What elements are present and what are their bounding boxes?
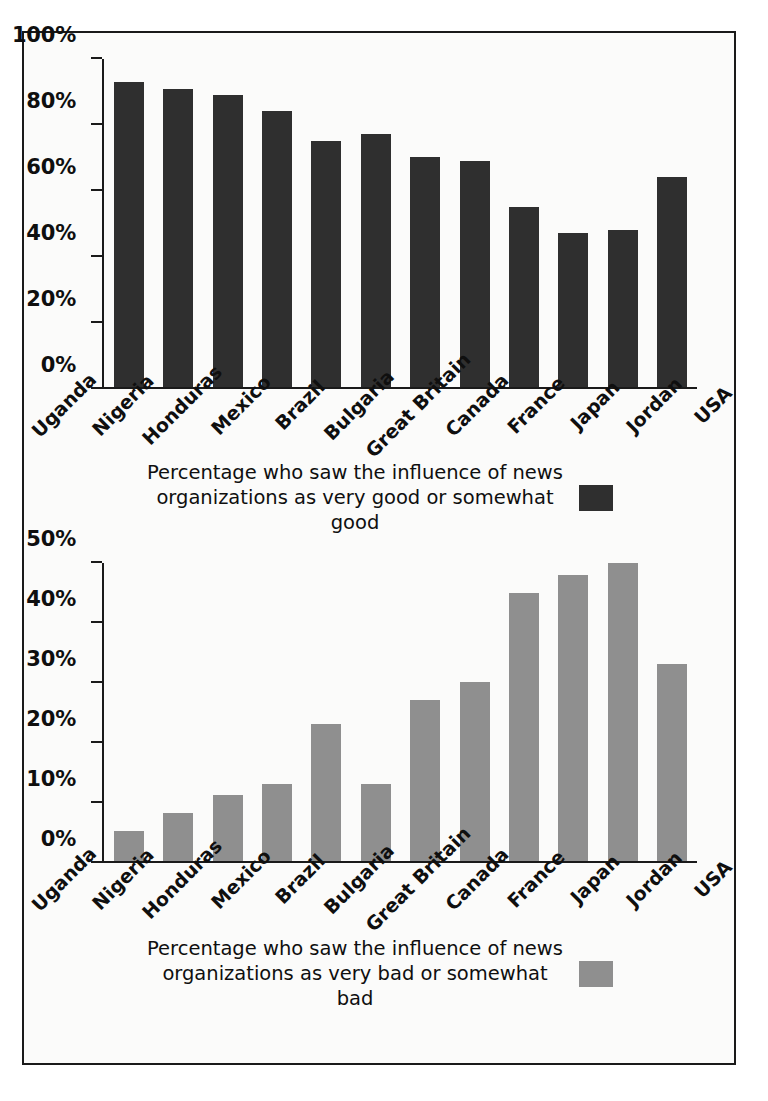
y-tick-label-bad-4: 10%: [26, 767, 76, 791]
bar-bad-japan: [558, 575, 588, 861]
y-tick-bad-2: 30%: [91, 681, 102, 683]
legend-bad-line1: Percentage who saw the influence of news: [145, 937, 565, 962]
bar-bad-great-britain: [410, 700, 440, 861]
legend-good-line1: Percentage who saw the influence of news: [145, 461, 565, 486]
y-tick-label-bad-0: 50%: [26, 527, 76, 551]
y-tick-bad-1: 40%: [91, 621, 102, 623]
plot-area-good: 100%80%60%40%20%0%: [102, 59, 697, 389]
bar-bad-france: [509, 593, 539, 861]
bar-good-jordan: [608, 230, 638, 387]
y-tick-label-good-2: 60%: [26, 155, 76, 179]
bar-good-brazil: [311, 141, 341, 387]
y-tick-label-good-3: 40%: [26, 221, 76, 245]
bar-bad-nigeria: [163, 813, 193, 861]
x-label-text: Uganda: [27, 842, 100, 915]
bar-bad-jordan: [608, 563, 638, 861]
legend-bad-swatch: [579, 961, 613, 987]
y-tick-label-bad-3: 20%: [26, 707, 76, 731]
bar-series-bad: [104, 563, 697, 861]
bar-good-great-britain: [410, 157, 440, 387]
x-label-text: Uganda: [27, 368, 100, 441]
y-tick-label-good-4: 20%: [26, 287, 76, 311]
y-tick-label-good-5: 0%: [41, 353, 76, 377]
y-tick-label-good-0: 100%: [12, 23, 76, 47]
bar-series-good: [104, 59, 697, 387]
bar-good-bulgaria: [361, 134, 391, 387]
y-tick-bad-3: 20%: [91, 741, 102, 743]
bar-good-japan: [558, 233, 588, 387]
bar-good-mexico: [262, 111, 292, 387]
chart-panel-good: 100%80%60%40%20%0% UgandaNigeriaHonduras…: [24, 37, 734, 507]
y-tick-label-bad-1: 40%: [26, 587, 76, 611]
legend-good-text: Percentage who saw the influence of news…: [145, 461, 565, 536]
legend-good-line2: organizations as very good or somewhat g…: [145, 486, 565, 536]
bar-good-nigeria: [163, 89, 193, 387]
bar-good-honduras: [213, 95, 243, 387]
legend-good: Percentage who saw the influence of news…: [24, 461, 734, 536]
bar-good-usa: [657, 177, 687, 387]
plot-area-bad: 50%40%30%20%10%0%: [102, 563, 697, 863]
y-tick-label-bad-2: 30%: [26, 647, 76, 671]
legend-good-swatch: [579, 485, 613, 511]
y-tick-label-bad-5: 0%: [41, 827, 76, 851]
y-tick-good-3: 40%: [91, 255, 102, 257]
y-tick-bad-4: 10%: [91, 801, 102, 803]
bar-bad-brazil: [311, 724, 341, 861]
y-tick-label-good-1: 80%: [26, 89, 76, 113]
figure-frame: 100%80%60%40%20%0% UgandaNigeriaHonduras…: [22, 31, 736, 1065]
legend-bad-line2: organizations as very bad or somewhat ba…: [145, 962, 565, 1012]
bar-bad-usa: [657, 664, 687, 861]
legend-bad: Percentage who saw the influence of news…: [24, 937, 734, 1012]
y-tick-good-2: 60%: [91, 189, 102, 191]
y-tick-good-1: 80%: [91, 123, 102, 125]
bar-bad-mexico: [262, 784, 292, 861]
chart-panel-bad: 50%40%30%20%10%0% UgandaNigeriaHondurasM…: [24, 545, 734, 995]
bar-good-france: [509, 207, 539, 387]
legend-bad-text: Percentage who saw the influence of news…: [145, 937, 565, 1012]
y-tick-good-0: 100%: [91, 57, 102, 59]
bar-good-uganda: [114, 82, 144, 387]
y-tick-bad-0: 50%: [91, 561, 102, 563]
y-tick-good-4: 20%: [91, 321, 102, 323]
